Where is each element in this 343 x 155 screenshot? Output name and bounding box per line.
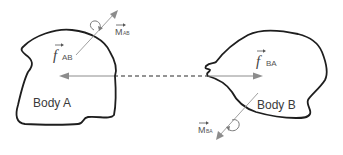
force-ab-arrowhead-icon	[59, 73, 69, 80]
force-ba-arrowhead-icon	[253, 73, 263, 80]
moment-ba-curl-icon	[228, 120, 239, 131]
svg-text:f: f	[53, 47, 59, 63]
force-ab-label: f AB	[53, 43, 73, 63]
vector-arrow-icon	[206, 121, 209, 124]
vector-arrow-icon	[61, 43, 64, 46]
vector-arrow-icon	[123, 23, 126, 26]
svg-text:AB: AB	[62, 53, 73, 62]
body-b-label: Body B	[257, 98, 296, 112]
svg-text:BA: BA	[266, 59, 277, 68]
moment-ba-line	[220, 93, 258, 135]
svg-text:AB: AB	[123, 30, 130, 36]
moment-ab-label: M AB	[115, 23, 130, 37]
vector-arrow-icon	[263, 49, 266, 52]
svg-text:f: f	[256, 53, 262, 69]
interaction-diagram: Body A Body B f AB f BA M AB M BA	[0, 0, 343, 155]
svg-text:M: M	[198, 125, 206, 135]
svg-text:M: M	[115, 27, 123, 37]
svg-text:BA: BA	[206, 128, 213, 134]
body-a-label: Body A	[33, 96, 71, 110]
moment-ba-label: M BA	[198, 121, 213, 135]
force-ba-label: f BA	[256, 49, 277, 69]
